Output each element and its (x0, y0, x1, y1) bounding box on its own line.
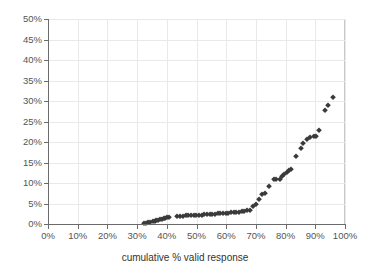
y-tick-mark (44, 122, 48, 123)
y-tick-label: 25% (2, 117, 42, 127)
gridline-vertical (286, 19, 287, 224)
data-point (166, 214, 171, 219)
gridline-vertical (197, 19, 198, 224)
gridline-vertical (256, 19, 257, 224)
y-tick-label: 35% (2, 76, 42, 86)
y-tick-label: 20% (2, 137, 42, 147)
data-point (323, 107, 328, 112)
y-tick-label: 10% (2, 178, 42, 188)
y-axis-line (48, 19, 49, 225)
x-tick-mark (197, 225, 198, 229)
x-tick-mark (48, 225, 49, 229)
y-tick-label: 40% (2, 55, 42, 65)
y-tick-label: 5% (2, 199, 42, 209)
gridline-vertical (167, 19, 168, 224)
gridline-vertical (315, 19, 316, 224)
data-point (253, 201, 258, 206)
y-tick-mark (44, 81, 48, 82)
y-tick-mark (44, 19, 48, 20)
y-tick-label: 30% (2, 96, 42, 106)
x-tick-mark (286, 225, 287, 229)
y-tick-label: 50% (2, 14, 42, 24)
x-tick-mark (78, 225, 79, 229)
x-tick-label: 100% (322, 230, 368, 241)
x-tick-mark (256, 225, 257, 229)
x-tick-mark (345, 225, 346, 229)
data-point (314, 133, 319, 138)
y-tick-mark (44, 204, 48, 205)
data-point (267, 183, 272, 188)
y-tick-mark (44, 142, 48, 143)
gridline-vertical (345, 19, 346, 224)
y-tick-mark (44, 183, 48, 184)
data-point (289, 167, 294, 172)
gridline-vertical (226, 19, 227, 224)
y-tick-mark (44, 163, 48, 164)
x-axis-title: cumulative % valid response (0, 252, 370, 263)
data-point (257, 196, 262, 201)
gridline-vertical (137, 19, 138, 224)
x-tick-mark (226, 225, 227, 229)
x-tick-mark (167, 225, 168, 229)
y-tick-label: 0% (2, 219, 42, 229)
data-point (293, 153, 298, 158)
gridline-vertical (78, 19, 79, 224)
y-tick-label: 15% (2, 158, 42, 168)
y-tick-mark (44, 101, 48, 102)
y-tick-label: 45% (2, 35, 42, 45)
x-tick-mark (315, 225, 316, 229)
x-tick-mark (107, 225, 108, 229)
y-tick-mark (44, 60, 48, 61)
scatter-chart: 0%5%10%15%20%25%30%35%40%45%50% 0%10%20%… (0, 0, 370, 277)
data-point (316, 127, 321, 132)
plot-area (48, 19, 345, 224)
x-tick-mark (137, 225, 138, 229)
y-tick-mark (44, 40, 48, 41)
gridline-vertical (107, 19, 108, 224)
data-point (331, 94, 336, 99)
data-point (326, 103, 331, 108)
